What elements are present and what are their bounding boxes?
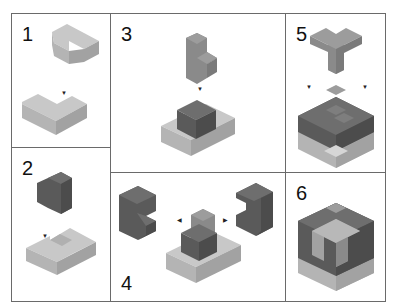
- stacked-assembly-illustration: [111, 173, 287, 303]
- base-with-dark-block-illustration: [111, 14, 287, 174]
- left-arrow-icon: ◀: [177, 217, 182, 223]
- step-panel-4: 4 ◀ ▶: [110, 172, 286, 302]
- placement-arrow-icon: ▼: [42, 233, 48, 239]
- partial-cube-illustration: [286, 14, 387, 174]
- step-panel-6: 6: [285, 172, 386, 302]
- placement-arrow-icon: ▼: [197, 86, 203, 92]
- step-panel-2: 2 ▼: [11, 147, 111, 302]
- right-arrow-icon: ▼: [362, 84, 368, 90]
- placement-arrow-icon: ▼: [61, 90, 67, 96]
- u-base-illustration: [12, 148, 112, 303]
- left-arrow-icon: ▼: [306, 84, 312, 90]
- step-panel-5: 5 ▼ ▼: [285, 13, 386, 173]
- step-panel-1: 1 ▼: [11, 13, 111, 148]
- right-arrow-icon: ▶: [223, 217, 228, 223]
- step-panel-3: 3 ▼: [110, 13, 286, 173]
- l-piece-illustration: [12, 14, 112, 149]
- completed-cube-illustration: [286, 173, 387, 303]
